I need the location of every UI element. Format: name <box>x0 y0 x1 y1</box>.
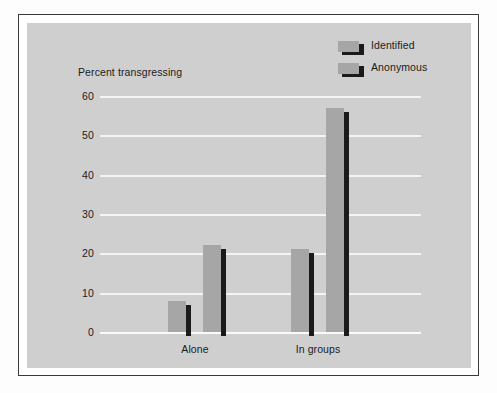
gridline-40 <box>100 175 421 177</box>
bar-fill <box>203 245 221 332</box>
gridline-60 <box>100 96 421 98</box>
legend-swatch-anonymous-icon <box>338 63 364 77</box>
bar-ingroups-anonymous <box>326 108 344 332</box>
x-tick-label-alone: Alone <box>163 343 227 355</box>
y-tick-label-10: 10 <box>66 287 94 299</box>
y-tick-label-40: 40 <box>66 169 94 181</box>
gridline-10 <box>100 293 421 295</box>
bar-alone-identified <box>168 301 186 332</box>
gridline-30 <box>100 214 421 216</box>
legend-label-anonymous: Anonymous <box>371 61 427 73</box>
bar-fill <box>168 301 186 332</box>
gridline-20 <box>100 253 421 255</box>
gridline-50 <box>100 135 421 137</box>
bar-shadow <box>221 249 226 336</box>
bar-shadow <box>344 112 349 336</box>
figure-canvas: 60 50 40 30 20 10 0 Percent transgressin… <box>0 0 497 393</box>
y-tick-label-60: 60 <box>66 90 94 102</box>
bar-chart: 60 50 40 30 20 10 0 Percent transgressin… <box>0 0 497 393</box>
legend-swatch-fill <box>338 41 359 52</box>
legend-swatch-fill <box>338 63 359 74</box>
x-tick-label-in-groups: In groups <box>281 343 355 355</box>
bar-shadow <box>186 305 191 336</box>
bar-shadow <box>309 253 314 336</box>
bar-fill <box>326 108 344 332</box>
y-tick-label-0: 0 <box>66 326 94 338</box>
bar-ingroups-identified <box>291 249 309 332</box>
legend-swatch-identified-icon <box>338 41 364 55</box>
y-tick-label-30: 30 <box>66 208 94 220</box>
bar-alone-anonymous <box>203 245 221 332</box>
bar-fill <box>291 249 309 332</box>
axis-line-zero <box>100 332 421 334</box>
legend-swatch-shadow-bottom <box>342 74 364 77</box>
y-tick-label-50: 50 <box>66 129 94 141</box>
y-tick-label-20: 20 <box>66 247 94 259</box>
legend-swatch-shadow-bottom <box>342 52 364 55</box>
y-axis-label: Percent transgressing <box>78 66 182 78</box>
legend-label-identified: Identified <box>371 39 415 51</box>
